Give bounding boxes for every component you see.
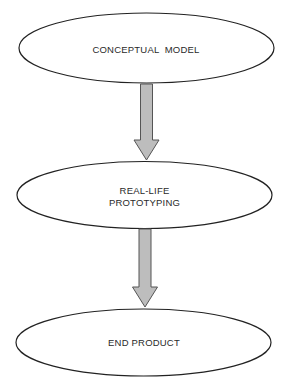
- flowchart-diagram: CONCEPTUAL MODEL REAL-LIFE PROTOTYPING E…: [0, 0, 289, 389]
- node-end-product: END PRODUCT: [16, 309, 271, 376]
- node-real-life-prototyping: REAL-LIFE PROTOTYPING: [17, 162, 272, 229]
- node-label: END PRODUCT: [108, 337, 180, 348]
- down-arrow-icon: [134, 84, 159, 160]
- node-conceptual-model: CONCEPTUAL MODEL: [19, 13, 274, 83]
- node-label-line-1: REAL-LIFE: [120, 185, 170, 196]
- node-label: CONCEPTUAL MODEL: [92, 44, 199, 55]
- down-arrow-icon: [133, 229, 158, 307]
- node-label-line-2: PROTOTYPING: [109, 197, 180, 208]
